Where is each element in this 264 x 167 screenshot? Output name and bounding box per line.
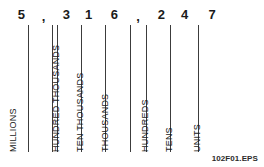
- place-value-name: HUNDREDS: [141, 99, 150, 152]
- place-label-holder: TENS: [174, 25, 184, 152]
- digit-value: 1: [82, 7, 96, 22]
- digit-comma: ,: [37, 9, 51, 24]
- column-divider-line: [130, 25, 131, 152]
- place-label-holder: TEN THOUSANDS: [85, 25, 95, 152]
- digit-value: 6: [107, 7, 121, 22]
- place-value-name: TEN THOUSANDS: [76, 73, 85, 152]
- digit-value: 3: [59, 7, 73, 22]
- place-value-name: UNITS: [193, 124, 202, 152]
- place-value-chart: 5,316,247 MILLIONSHUNDRED THOUSANDSTEN T…: [0, 0, 264, 167]
- place-value-name: THOUSANDS: [101, 94, 110, 152]
- place-label-holder: HUNDRED THOUSANDS: [61, 25, 71, 152]
- place-value-name: HUNDRED THOUSANDS: [52, 45, 61, 152]
- place-label-holder: MILLIONS: [18, 25, 28, 152]
- digit-comma: ,: [131, 9, 145, 24]
- place-value-name: TENS: [165, 127, 174, 152]
- place-value-name: MILLIONS: [9, 108, 18, 152]
- place-label-holder: THOUSANDS: [110, 25, 120, 152]
- digit-value: 2: [154, 7, 168, 22]
- digit-value: 7: [205, 7, 219, 22]
- column-divider-line: [28, 25, 29, 152]
- place-label-holder: HUNDREDS: [150, 25, 160, 152]
- digit-value: 4: [178, 7, 192, 22]
- file-id-label: 102F01.EPS: [212, 154, 258, 163]
- place-label-holder: UNITS: [202, 25, 212, 152]
- digit-value: 5: [14, 7, 28, 22]
